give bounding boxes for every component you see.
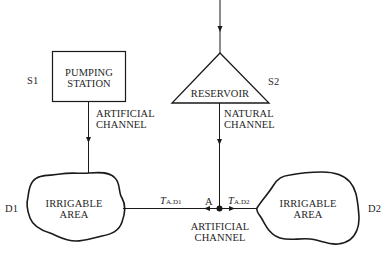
flow-label-t-a-d1-subscript: A.D1 [166, 198, 182, 206]
artificial-channel-s1-line1: ARTIFICIAL [96, 108, 155, 119]
pumping-station-label-line1: PUMPING [55, 67, 123, 78]
node-id-d2: D2 [368, 203, 381, 214]
node-id-s1: S1 [27, 75, 38, 86]
inflow-arrow-icon [218, 26, 223, 32]
pumping-station-label: PUMPING STATION [55, 67, 123, 89]
irrigable-area-d1-label: IRRIGABLE AREA [38, 198, 110, 220]
artificial-channel-a-label: ARTIFICIAL CHANNEL [184, 221, 256, 243]
artificial-channel-a-line2: CHANNEL [184, 232, 256, 243]
natural-channel-line2: CHANNEL [224, 119, 275, 130]
irrigable-area-d2-line1: IRRIGABLE [270, 198, 346, 209]
flow-label-t-a-d2-subscript: A.D2 [234, 198, 250, 206]
natural-channel-line1: NATURAL [224, 108, 275, 119]
irrigable-area-d2-line2: AREA [270, 209, 346, 220]
artificial-channel-a-line1: ARTIFICIAL [184, 221, 256, 232]
s1-d1-arrow-icon [86, 137, 91, 143]
node-id-s2: S2 [268, 76, 279, 87]
junction-a-dot [217, 206, 223, 212]
flow-label-t-a-d1: TA.D1 [160, 195, 182, 208]
artificial-channel-s1-label: ARTIFICIAL CHANNEL [96, 108, 155, 130]
node-id-d1: D1 [5, 203, 18, 214]
reservoir-label: RESERVOIR [185, 88, 255, 99]
pumping-station-label-line2: STATION [55, 78, 123, 89]
irrigable-area-d2-label: IRRIGABLE AREA [270, 198, 346, 220]
s2-a-arrow-icon [217, 139, 222, 145]
junction-a-label: A [205, 196, 213, 207]
artificial-channel-s1-line2: CHANNEL [96, 119, 155, 130]
irrigable-area-d1-line2: AREA [38, 209, 110, 220]
flow-label-t-a-d2: TA.D2 [228, 195, 250, 208]
irrigable-area-d1-line1: IRRIGABLE [38, 198, 110, 209]
natural-channel-label: NATURAL CHANNEL [224, 108, 275, 130]
